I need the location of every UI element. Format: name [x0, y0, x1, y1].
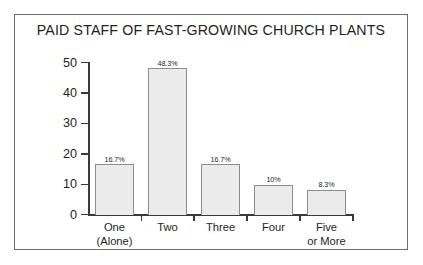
y-axis-tick-label-50: 50: [63, 55, 77, 69]
y-axis-tick-50: 50: [81, 62, 88, 63]
bar-value-two: 48.3%: [158, 59, 178, 68]
x-axis-category-one-alone-line2: (Alone): [85, 235, 144, 249]
y-axis-tick-30: 30: [81, 123, 88, 124]
x-axis-tick-3: [246, 215, 248, 221]
y-axis-tick-40: 40: [81, 92, 88, 93]
bar-value-four: 10%: [266, 175, 280, 184]
bar-four[interactable]: 10%: [254, 185, 293, 215]
bar-five-or-more[interactable]: 8.3%: [307, 190, 346, 215]
x-axis-category-two: Two: [138, 221, 197, 235]
bar-value-five-or-more: 8.3%: [319, 180, 335, 189]
x-axis-category-three: Three: [191, 221, 250, 235]
y-axis-tick-label-20: 20: [63, 147, 77, 161]
x-axis-category-two-line1: Two: [157, 221, 178, 233]
chart-figure: PAID STAFF OF FAST-GROWING CHURCH PLANTS…: [0, 0, 423, 265]
x-axis-tick-2: [193, 215, 195, 221]
y-axis-line: [88, 62, 90, 216]
bar-value-one-alone: 16.7%: [105, 155, 125, 164]
y-axis-tick-label-30: 30: [63, 116, 77, 130]
y-axis-tick-20: 20: [81, 153, 88, 154]
bar-one-alone[interactable]: 16.7%: [95, 164, 134, 215]
x-axis-category-four: Four: [244, 221, 303, 235]
x-axis-category-five-or-more: Five or More: [297, 221, 356, 248]
x-axis-category-one-alone: One (Alone): [85, 221, 144, 248]
x-axis-category-three-line1: Three: [206, 221, 235, 233]
chart-title: PAID STAFF OF FAST-GROWING CHURCH PLANTS: [14, 22, 408, 38]
x-axis-tick-4: [299, 215, 301, 221]
x-axis-category-five-or-more-line2: or More: [297, 235, 356, 249]
bar-two[interactable]: 48.3%: [148, 68, 187, 215]
y-axis-tick-label-40: 40: [63, 86, 77, 100]
x-axis-tick-5: [352, 215, 354, 221]
y-axis-tick-0: 0: [81, 214, 88, 215]
bar-value-three: 16.7%: [211, 155, 231, 164]
x-axis-category-four-line1: Four: [262, 221, 285, 233]
y-axis-tick-label-0: 0: [70, 207, 77, 221]
bar-three[interactable]: 16.7%: [201, 164, 240, 215]
x-axis-category-five-or-more-line1: Five: [316, 221, 337, 233]
x-axis-category-one-alone-line1: One: [104, 221, 125, 233]
x-axis-tick-1: [141, 215, 143, 221]
y-axis-tick-10: 10: [81, 184, 88, 185]
y-axis-tick-label-10: 10: [63, 177, 77, 191]
